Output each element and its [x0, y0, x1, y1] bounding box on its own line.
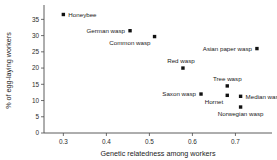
- data-point-group: Common wasp: [109, 35, 156, 46]
- data-point-marker: [181, 66, 184, 69]
- data-point-group: Hornet: [205, 94, 229, 105]
- data-point-marker: [255, 47, 258, 50]
- data-point-label: Saxon wasp: [162, 90, 196, 97]
- data-point-marker: [226, 94, 229, 97]
- data-point-label: Honeybee: [68, 11, 97, 18]
- y-axis: 05101520253035: [32, 5, 44, 136]
- x-axis-title: Genetic relatedness among workers: [100, 149, 215, 158]
- x-axis: 0.30.40.50.60.7: [44, 133, 272, 145]
- data-point-marker: [226, 84, 229, 87]
- data-point-marker: [128, 29, 131, 32]
- data-point-label: Tree wasp: [213, 75, 242, 82]
- x-tick-label: 0.5: [145, 138, 154, 145]
- y-tick-label: 30: [32, 32, 40, 39]
- y-tick-label: 5: [35, 113, 39, 120]
- data-point-group: Saxon wasp: [162, 90, 202, 97]
- data-point-group: Tree wasp: [213, 75, 242, 88]
- data-point-marker: [62, 13, 65, 16]
- data-point-group: Median wasp: [239, 93, 277, 100]
- data-point-marker: [239, 105, 242, 108]
- data-point-marker: [153, 35, 156, 38]
- data-point-label: Hornet: [205, 98, 224, 105]
- y-tick-label: 20: [32, 64, 40, 71]
- x-tick-label: 0.4: [102, 138, 111, 145]
- y-axis-title: % of egg-laying workers: [4, 32, 13, 109]
- y-tick-label: 35: [32, 16, 40, 23]
- y-tick-label: 10: [32, 97, 40, 104]
- scatter-plot-figure: 05101520253035 0.30.40.50.60.7 HoneybeeG…: [0, 0, 277, 160]
- data-point-group: Honeybee: [62, 11, 97, 18]
- y-tick-label: 0: [35, 129, 39, 136]
- x-tick-label: 0.7: [231, 138, 240, 145]
- y-tick-label: 15: [32, 81, 40, 88]
- x-tick-label: 0.3: [59, 138, 68, 145]
- data-point-group: Red wasp: [167, 57, 195, 70]
- data-point-label: German wasp: [87, 27, 126, 34]
- data-point-marker: [199, 92, 202, 95]
- data-point-label: Median wasp: [246, 93, 277, 100]
- data-point-marker: [239, 95, 242, 98]
- y-tick-label: 25: [32, 48, 40, 55]
- data-point-group: German wasp: [87, 27, 132, 34]
- data-point-label: Common wasp: [109, 39, 151, 46]
- x-tick-label: 0.6: [188, 138, 197, 145]
- data-point-label: Red wasp: [167, 57, 195, 64]
- data-point-group: Asian paper wasp: [203, 45, 259, 52]
- data-point-label: Asian paper wasp: [203, 45, 253, 52]
- plot-canvas: 05101520253035 0.30.40.50.60.7 HoneybeeG…: [0, 0, 277, 160]
- data-points-layer: HoneybeeGerman waspCommon waspRed waspAs…: [62, 11, 277, 117]
- data-point-group: Norwegian wasp: [218, 105, 264, 117]
- data-point-label: Norwegian wasp: [218, 110, 264, 117]
